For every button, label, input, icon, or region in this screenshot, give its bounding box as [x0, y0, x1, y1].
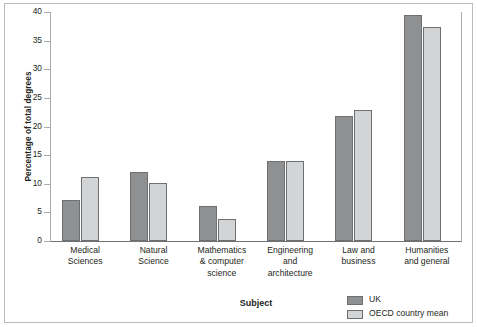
category-label-line: Science [117, 256, 191, 267]
bar-group [188, 12, 256, 241]
bar-uk [199, 206, 217, 241]
bar-uk [130, 172, 148, 241]
y-axis-tick-mark [44, 98, 51, 99]
y-axis-tick-label: 5 [37, 206, 42, 216]
category-label-line: & computer [185, 256, 259, 267]
category-label-line: Engineering [253, 245, 327, 256]
category-label-line: Law and [322, 245, 396, 256]
category-label-line: Humanities [390, 245, 464, 256]
y-axis-tick-label: 30 [33, 63, 42, 73]
y-axis-tick: 30 [20, 69, 51, 70]
y-axis-tick-label: 35 [33, 35, 42, 45]
y-axis-tick-mark [44, 184, 51, 185]
y-axis-tick-label: 20 [33, 121, 42, 131]
y-axis-tick: 5 [20, 212, 51, 213]
bar-oecd [81, 177, 99, 241]
y-axis-tick-mark [44, 12, 51, 13]
x-axis-category-label: MedicalSciences [48, 245, 122, 268]
plot-area: 0510152025303540 [50, 12, 462, 242]
plot-inner: 0510152025303540 [51, 12, 461, 241]
bar-oecd [149, 183, 167, 241]
y-axis-tick-mark [44, 212, 51, 213]
y-axis-tick-mark [44, 69, 51, 70]
chart-figure: Percentage of total degrees 051015202530… [4, 3, 473, 323]
legend-item: UK [347, 294, 467, 308]
category-label-line: architecture [253, 268, 327, 279]
y-axis-tick: 15 [20, 155, 51, 156]
x-axis-category-labels: MedicalSciencesNaturalScienceMathematics… [50, 245, 462, 293]
y-axis-tick: 25 [20, 98, 51, 99]
y-axis-tick-mark [44, 155, 51, 156]
legend-swatch-uk [347, 296, 363, 305]
bar-uk [335, 116, 353, 241]
y-axis-tick: 20 [20, 127, 51, 128]
category-label-line: Sciences [48, 256, 122, 267]
bar-group [256, 12, 324, 241]
x-axis-category-label: Engineeringandarchitecture [253, 245, 327, 279]
category-label-line: Natural [117, 245, 191, 256]
chart-legend: UKOECD country mean [347, 294, 467, 322]
bar-uk [62, 200, 80, 241]
bar-oecd [354, 110, 372, 241]
bar-uk [404, 15, 422, 241]
y-axis-tick-label: 10 [33, 178, 42, 188]
legend-item: OECD country mean [347, 308, 467, 322]
y-axis-tick-mark [44, 127, 51, 128]
bar-oecd [286, 161, 304, 241]
y-axis-tick-label: 40 [33, 6, 42, 16]
y-axis-tick-label: 15 [33, 149, 42, 159]
legend-swatch-oecd [347, 310, 363, 319]
category-label-line: and [253, 256, 327, 267]
bar-group [119, 12, 187, 241]
y-axis-tick: 40 [20, 12, 51, 13]
bar-group [51, 12, 119, 241]
x-axis-category-label: Humanitiesand general [390, 245, 464, 268]
bar-uk [267, 161, 285, 241]
y-axis-tick-mark [44, 241, 51, 242]
legend-label: OECD country mean [369, 308, 448, 318]
x-axis-category-label: Mathematics& computerscience [185, 245, 259, 279]
y-axis-tick: 0 [20, 241, 51, 242]
bar-oecd [218, 219, 236, 241]
y-axis-tick-label: 25 [33, 92, 42, 102]
bar-oecd [423, 27, 441, 241]
category-label-line: business [322, 256, 396, 267]
y-axis-tick: 10 [20, 184, 51, 185]
category-label-line: Medical [48, 245, 122, 256]
category-label-line: and general [390, 256, 464, 267]
bar-group [393, 12, 461, 241]
y-axis-tick-label: 0 [37, 235, 42, 245]
y-axis-tick-mark [44, 41, 51, 42]
x-axis-category-label: NaturalScience [117, 245, 191, 268]
y-axis-tick: 35 [20, 41, 51, 42]
x-axis-category-label: Law andbusiness [322, 245, 396, 268]
bar-group [324, 12, 392, 241]
category-label-line: science [185, 268, 259, 279]
category-label-line: Mathematics [185, 245, 259, 256]
legend-label: UK [369, 294, 381, 304]
